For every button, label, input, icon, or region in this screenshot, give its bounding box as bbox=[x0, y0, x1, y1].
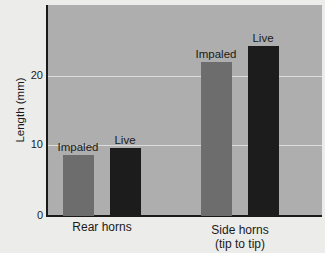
bar-rear-live bbox=[110, 148, 141, 216]
bar-rear-impaled bbox=[63, 155, 94, 216]
category-side-horns-line1: Side horns bbox=[180, 223, 300, 237]
bar-side-impaled bbox=[201, 62, 232, 216]
category-side-horns-line2: (tip to tip) bbox=[180, 237, 300, 251]
category-rear-horns: Rear horns bbox=[42, 220, 162, 234]
category-side-horns: Side horns (tip to tip) bbox=[180, 223, 300, 251]
bar-label-rear-live: Live bbox=[95, 134, 155, 146]
bar-side-live bbox=[248, 46, 279, 216]
y-axis-line bbox=[46, 5, 48, 217]
bar-label-side-impaled: Impaled bbox=[186, 48, 246, 60]
bar-label-side-live: Live bbox=[233, 32, 293, 44]
y-axis-label: Length (mm) bbox=[14, 77, 26, 142]
gridline-20 bbox=[46, 76, 322, 77]
y-tick-0: 0 bbox=[13, 209, 43, 221]
